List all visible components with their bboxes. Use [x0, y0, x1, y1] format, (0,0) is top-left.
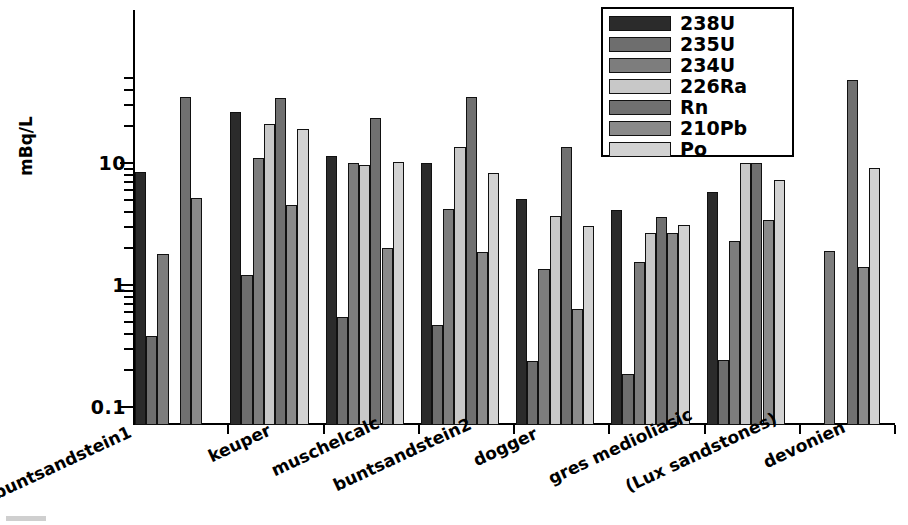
scan-artifact	[6, 516, 46, 521]
bar-210pb-muschelcalc	[382, 248, 393, 425]
legend-swatch-icon	[609, 121, 671, 136]
bar-po--lux-sandstones-	[774, 180, 785, 425]
y-tick-minor	[124, 168, 133, 170]
legend-label: 210Pb	[680, 119, 747, 138]
bar-rn-devonien	[847, 80, 858, 425]
legend-label: Po	[680, 140, 707, 159]
bar-238u-keuper	[230, 112, 241, 425]
bar-238u-buntsandstein2	[421, 163, 432, 425]
y-axis-tick-labels: 1010.1	[78, 10, 126, 425]
y-tick-major	[120, 406, 133, 408]
bar-rn-gres-medioliasic	[656, 217, 667, 425]
x-axis-category-labels: buntsandstein1keupermuschelcalcbuntsands…	[0, 430, 908, 525]
bar-226ra-muschelcalc	[359, 165, 370, 425]
bar-group	[419, 10, 514, 425]
legend-item-po: Po	[609, 139, 792, 159]
bar-group	[514, 10, 609, 425]
bar-234u-muschelcalc	[348, 163, 359, 425]
legend-swatch-icon	[609, 37, 671, 52]
y-tick-minor	[124, 125, 133, 127]
bar-group	[800, 10, 895, 425]
legend-swatch-icon	[609, 142, 671, 157]
y-tick-minor	[124, 174, 133, 176]
bar-226ra-keuper	[264, 124, 275, 425]
y-tick-minor	[124, 77, 133, 79]
y-tick-minor	[124, 333, 133, 335]
bar-po-devonien	[869, 168, 880, 425]
bar-group	[324, 10, 419, 425]
bar-210pb-devonien	[858, 267, 869, 425]
legend-item-226ra: 226Ra	[609, 76, 792, 96]
x-label-buntsandstein1: buntsandstein1	[0, 422, 134, 503]
bar-rn-buntsandstein2	[466, 97, 477, 425]
x-label-keuper: keuper	[205, 420, 274, 466]
bar-210pb--lux-sandstones-	[763, 220, 774, 425]
bar-238u-buntsandstein1	[135, 172, 146, 425]
y-tick-minor	[124, 247, 133, 249]
bar-226ra-dogger	[550, 216, 561, 425]
legend-item-238u: 238U	[609, 13, 792, 33]
legend-item-rn: Rn	[609, 97, 792, 117]
y-tick-minor	[124, 296, 133, 298]
legend-label: Rn	[680, 98, 708, 117]
legend-swatch-icon	[609, 100, 671, 115]
bar-235u-keuper	[241, 275, 252, 425]
bar-po-buntsandstein2	[488, 173, 499, 425]
legend-item-210pb: 210Pb	[609, 118, 792, 138]
bar-po-dogger	[583, 226, 594, 425]
bar-210pb-buntsandstein1	[191, 198, 202, 425]
y-tick-minor	[124, 226, 133, 228]
bar-rn--lux-sandstones-	[751, 163, 762, 425]
bar-rn-buntsandstein1	[180, 97, 191, 425]
y-tick-minor	[124, 311, 133, 313]
y-tick-minor	[124, 89, 133, 91]
legend-swatch-icon	[609, 79, 671, 94]
bar-235u-buntsandstein1	[146, 336, 157, 425]
bar-235u--lux-sandstones-	[718, 360, 729, 425]
bar-238u-muschelcalc	[326, 156, 337, 425]
bar-rn-muschelcalc	[370, 118, 381, 425]
legend-label: 234U	[680, 56, 735, 75]
y-tick-major	[120, 284, 133, 286]
y-tick-minor	[124, 369, 133, 371]
y-tick-minor	[124, 181, 133, 183]
y-tick-minor	[124, 189, 133, 191]
y-tick-minor	[124, 290, 133, 292]
bar-235u-muschelcalc	[337, 317, 348, 425]
chart-legend: 238U235U234U226RaRn210PbPo	[601, 7, 794, 157]
bar-group	[228, 10, 323, 425]
legend-item-234u: 234U	[609, 55, 792, 75]
y-tick-minor	[124, 303, 133, 305]
bar-rn-keuper	[275, 98, 286, 425]
bar-210pb-dogger	[572, 309, 583, 425]
bar-238u--lux-sandstones-	[707, 192, 718, 425]
bar-chart: mBq/L 1010.1 buntsandstein1keupermuschel…	[0, 0, 908, 525]
bar-226ra-buntsandstein2	[454, 147, 465, 425]
bar-210pb-gres-medioliasic	[667, 233, 678, 425]
legend-item-235u: 235U	[609, 34, 792, 54]
bar-234u-devonien	[824, 251, 835, 425]
x-label-dogger: dogger	[470, 423, 540, 470]
legend-label: 238U	[680, 14, 735, 33]
bar-rn-dogger	[561, 147, 572, 425]
bar-210pb-buntsandstein2	[477, 252, 488, 425]
bar-po-gres-medioliasic	[678, 225, 689, 425]
legend-swatch-icon	[609, 16, 671, 31]
bar-234u--lux-sandstones-	[729, 241, 740, 425]
bar-234u-buntsandstein1	[157, 254, 168, 425]
y-tick-minor	[124, 321, 133, 323]
bar-234u-dogger	[538, 269, 549, 425]
bar-235u-dogger	[527, 361, 538, 425]
bar-po-muschelcalc	[393, 162, 404, 425]
bar-234u-gres-medioliasic	[634, 262, 645, 425]
bar-238u-gres-medioliasic	[611, 210, 622, 425]
bar-po-keuper	[297, 129, 308, 425]
bar-226ra--lux-sandstones-	[740, 163, 751, 425]
y-axis-title: mBq/L	[16, 116, 36, 176]
bar-210pb-keuper	[286, 205, 297, 425]
bar-238u-dogger	[516, 199, 527, 425]
bar-235u-buntsandstein2	[432, 325, 443, 425]
y-tick-minor	[124, 104, 133, 106]
y-tick-minor	[124, 199, 133, 201]
legend-label: 226Ra	[680, 77, 747, 96]
